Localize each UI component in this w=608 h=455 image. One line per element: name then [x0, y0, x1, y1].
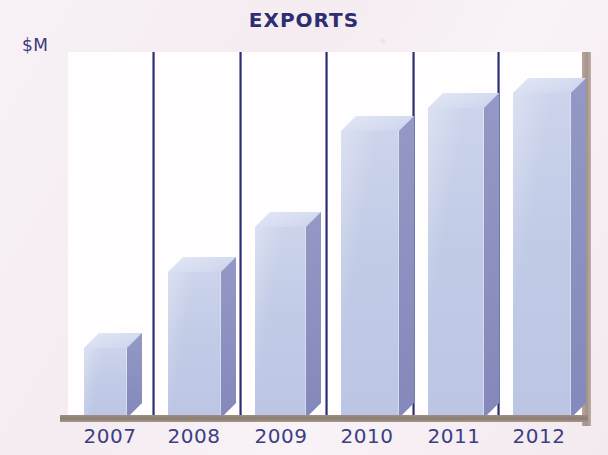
- category-separator-2: [239, 52, 242, 416]
- category-separator-3: [325, 52, 328, 416]
- bar-2012: [513, 78, 586, 418]
- bar-front-face-2008: [168, 272, 221, 418]
- bar-side-face-2011: [484, 93, 499, 418]
- bar-2008: [168, 257, 236, 418]
- chart-screenshot: EXPORTS $M 200720082009201020112012: [0, 0, 608, 455]
- bar-side-face-2010: [399, 116, 414, 418]
- bar-front-face-2009: [255, 227, 306, 418]
- y-axis-unit-label: $M: [22, 35, 48, 55]
- chart-title: EXPORTS: [0, 8, 608, 32]
- bar-side-face-2012: [571, 78, 586, 418]
- x-tick-label-2009: 2009: [249, 424, 313, 448]
- bar-front-face-2012: [513, 93, 571, 418]
- x-tick-label-2008: 2008: [162, 424, 226, 448]
- bar-side-face-2008: [221, 257, 236, 418]
- bar-2007: [84, 333, 142, 418]
- chart-baseline: [60, 415, 588, 422]
- bar-2011: [428, 93, 499, 418]
- bar-2009: [255, 212, 321, 418]
- x-tick-label-2007: 2007: [78, 424, 142, 448]
- category-separator-1: [152, 52, 155, 416]
- x-tick-label-2010: 2010: [335, 424, 399, 448]
- bar-front-face-2010: [341, 131, 399, 418]
- bar-side-face-2009: [306, 212, 321, 418]
- bar-2010: [341, 116, 414, 418]
- x-tick-label-2012: 2012: [507, 424, 571, 448]
- bar-front-face-2007: [84, 348, 127, 418]
- x-tick-label-2011: 2011: [422, 424, 486, 448]
- bar-front-face-2011: [428, 108, 484, 418]
